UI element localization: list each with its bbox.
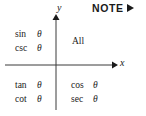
function-name: sec xyxy=(71,93,93,107)
quadrant-3-labels: tan θ cot θ xyxy=(15,79,42,107)
quadrant-1-labels: All xyxy=(72,35,84,49)
arrow-up-icon xyxy=(53,14,60,20)
function-row: cot θ xyxy=(15,93,42,107)
quadrant-2-labels: sin θ csc θ xyxy=(15,28,42,56)
y-axis-label: y xyxy=(57,3,61,13)
function-variable: θ xyxy=(37,79,42,93)
x-axis-label: x xyxy=(120,58,124,68)
trig-sign-quadrant-figure: NOTE y x All sin θ csc θ tan θ xyxy=(0,0,146,116)
function-variable: θ xyxy=(37,28,42,42)
function-variable: θ xyxy=(93,93,98,107)
function-row: csc θ xyxy=(15,42,42,56)
function-name: sin xyxy=(15,28,37,42)
quadrant-4-labels: cos θ sec θ xyxy=(71,79,98,107)
function-row: tan θ xyxy=(15,79,42,93)
function-name: cot xyxy=(15,93,37,107)
function-variable: θ xyxy=(37,42,42,56)
function-row: sin θ xyxy=(15,28,42,42)
function-name: cos xyxy=(71,79,93,93)
quadrant-1-all-label: All xyxy=(72,35,84,49)
function-name: tan xyxy=(15,79,37,93)
function-row: cos θ xyxy=(71,79,98,93)
function-variable: θ xyxy=(37,93,42,107)
function-row: sec θ xyxy=(71,93,98,107)
function-name: csc xyxy=(15,42,37,56)
arrow-right-icon xyxy=(112,62,118,69)
function-variable: θ xyxy=(93,79,98,93)
